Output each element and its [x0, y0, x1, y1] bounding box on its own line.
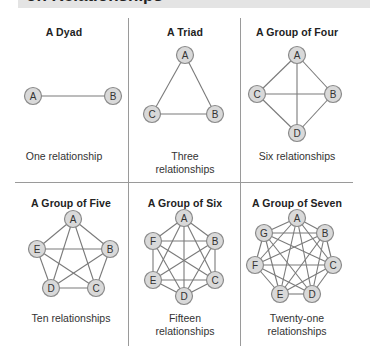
- node-label: D: [180, 291, 187, 302]
- node-a: A: [25, 88, 42, 105]
- node-e: E: [29, 241, 46, 258]
- node-label: B: [110, 91, 117, 102]
- node-label: C: [329, 260, 336, 271]
- node-e: E: [272, 286, 289, 303]
- node-label: B: [212, 236, 219, 247]
- relationship-graphs: ABABCABCDABCDEABCDEFABCDEFG: [0, 0, 370, 355]
- node-f: F: [247, 257, 264, 274]
- node-b: B: [207, 106, 224, 123]
- node-a: A: [177, 47, 194, 64]
- node-e: E: [145, 272, 162, 289]
- node-label: B: [330, 89, 337, 100]
- node-label: A: [182, 50, 189, 61]
- node-label: A: [30, 91, 37, 102]
- relationship-edge: [297, 218, 312, 294]
- node-label: C: [148, 109, 155, 120]
- node-b: B: [105, 88, 122, 105]
- node-g: G: [256, 225, 273, 242]
- node-label: E: [34, 244, 41, 255]
- node-d: D: [176, 288, 193, 305]
- node-label: F: [150, 236, 156, 247]
- relationship-edge: [185, 55, 215, 114]
- node-label: D: [293, 128, 300, 139]
- node-f: F: [145, 233, 162, 250]
- relationship-edge: [51, 219, 73, 288]
- node-d: D: [43, 280, 60, 297]
- node-label: A: [70, 214, 77, 225]
- node-label: F: [252, 260, 258, 271]
- node-label: D: [47, 283, 54, 294]
- graph-group-of-seven: ABCDEFG: [247, 210, 342, 303]
- node-b: B: [102, 241, 119, 258]
- node-a: A: [289, 47, 306, 64]
- node-label: B: [107, 244, 114, 255]
- node-b: B: [325, 86, 342, 103]
- node-label: C: [92, 283, 99, 294]
- node-label: A: [294, 50, 301, 61]
- node-c: C: [249, 86, 266, 103]
- node-a: A: [289, 210, 306, 227]
- node-label: C: [253, 89, 260, 100]
- node-label: E: [150, 275, 157, 286]
- node-d: D: [304, 286, 321, 303]
- node-label: E: [277, 289, 284, 300]
- graph-group-of-five: ABCDE: [29, 211, 119, 297]
- node-label: B: [322, 228, 329, 239]
- node-b: B: [207, 233, 224, 250]
- node-a: A: [176, 210, 193, 227]
- relationship-edge: [152, 55, 185, 114]
- node-a: A: [65, 211, 82, 228]
- node-c: C: [144, 106, 161, 123]
- node-label: A: [294, 213, 301, 224]
- node-label: C: [211, 275, 218, 286]
- node-c: C: [207, 272, 224, 289]
- node-label: G: [260, 228, 268, 239]
- node-c: C: [325, 257, 342, 274]
- graph-group-of-six: ABCDEF: [145, 210, 224, 305]
- node-label: B: [212, 109, 219, 120]
- graph-group-of-four: ABCD: [249, 47, 342, 142]
- graph-dyad: AB: [25, 88, 122, 105]
- node-b: B: [317, 225, 334, 242]
- graph-triad: ABC: [144, 47, 224, 123]
- node-label: D: [308, 289, 315, 300]
- node-d: D: [289, 125, 306, 142]
- relationship-edge: [73, 219, 96, 288]
- node-c: C: [88, 280, 105, 297]
- node-label: A: [181, 213, 188, 224]
